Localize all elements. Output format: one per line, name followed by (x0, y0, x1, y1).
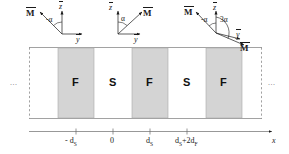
tick-label-minus-ds: - dS (65, 137, 77, 147)
z-axis-label-left: z (59, 3, 62, 11)
figure-canvas (0, 0, 289, 154)
tick-label-ds-plus-2df: dS+2dF (175, 137, 198, 147)
angle-label-middle: α (121, 15, 125, 23)
magnetization-label-right-2: M (240, 44, 249, 53)
magnetization-label-left: M (26, 9, 35, 18)
y-axis-label-middle: y (134, 36, 138, 44)
layer-label-s1: S (109, 77, 116, 88)
right-ellipsis: ... (268, 79, 276, 87)
physics-figure: M z y -α M z y α M M z y -α 3α F S F S F… (0, 0, 289, 154)
y-axis-label-right: y (236, 31, 240, 39)
tick-label-ds: dS (146, 137, 153, 147)
magnetization-label-middle: M (143, 9, 152, 18)
left-ellipsis: ... (10, 79, 18, 87)
z-axis-label-right: z (213, 4, 216, 12)
y-axis-label-left: y (76, 36, 80, 44)
angle-label-right-1: -α (201, 16, 207, 24)
layer-label-s2: S (183, 77, 190, 88)
layer-label-f2: F (146, 77, 153, 88)
angle-label-left: -α (46, 16, 52, 24)
layer-label-f3: F (220, 77, 227, 88)
angle-label-right-2: 3α (220, 16, 228, 24)
layer-label-f1: F (72, 77, 79, 88)
x-axis-label: x (272, 137, 276, 145)
magnetization-label-right-1: M (184, 8, 193, 17)
tick-label-zero: 0 (110, 137, 114, 145)
x-axis (29, 129, 272, 135)
z-axis-label-middle: z (109, 4, 112, 12)
